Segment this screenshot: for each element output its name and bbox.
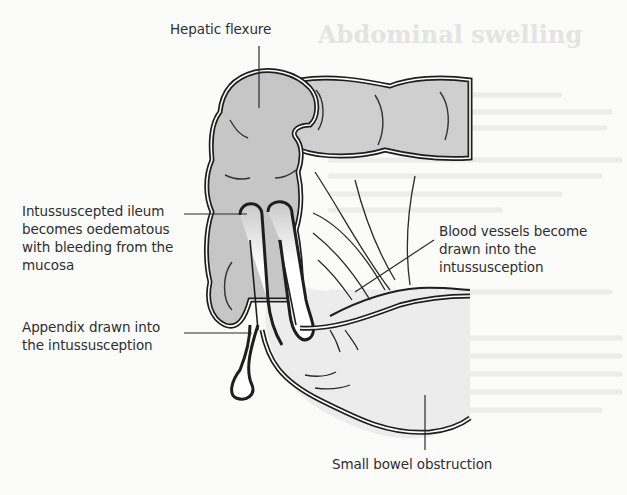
label-line: becomes oedematous xyxy=(22,220,222,238)
label-intussuscepted-ileum: Intussuscepted ileum becomes oedematous … xyxy=(22,202,222,274)
label-line: the intussusception xyxy=(22,336,202,354)
label-hepatic-flexure: Hepatic flexure xyxy=(170,20,271,38)
label-small-bowel-obstruction: Small bowel obstruction xyxy=(332,455,492,473)
label-line: intussusception xyxy=(439,258,627,276)
leader-blood-vessels xyxy=(355,240,434,292)
label-blood-vessels: Blood vessels become drawn into the intu… xyxy=(439,222,627,276)
label-line: mucosa xyxy=(22,256,222,274)
label-line: Blood vessels become xyxy=(439,222,627,240)
label-line: Appendix drawn into xyxy=(22,318,202,336)
label-appendix: Appendix drawn into the intussusception xyxy=(22,318,202,354)
label-line: Intussuscepted ileum xyxy=(22,202,222,220)
appendix xyxy=(232,325,258,399)
label-line: drawn into the xyxy=(439,240,627,258)
label-line: with bleeding from the xyxy=(22,238,222,256)
